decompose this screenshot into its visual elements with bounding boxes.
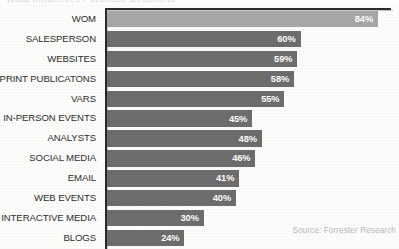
bar-category-label: SOCIAL MEDIA xyxy=(0,152,96,163)
bar: 60% xyxy=(107,31,301,47)
bar-row: VARS55% xyxy=(0,91,399,111)
bar-rows: WOM84%SALESPERSON60%WEBSITES59%PRINT PUB… xyxy=(0,11,399,249)
bar-category-label: BLOGS xyxy=(0,232,96,243)
bar-category-label: VARS xyxy=(0,93,96,104)
bar-value-label: 45% xyxy=(229,114,247,124)
bar-value-label: 41% xyxy=(216,173,234,183)
bar-row: WOM84% xyxy=(0,11,399,31)
bar: 30% xyxy=(107,210,204,226)
bar-row: WEBSITES59% xyxy=(0,51,399,71)
bar: 55% xyxy=(107,91,284,107)
bar-category-label: ANALYSTS xyxy=(0,132,96,143)
bar-category-label: EMAIL xyxy=(0,172,96,183)
bar-value-label: 55% xyxy=(261,94,279,104)
bar: 59% xyxy=(107,51,297,67)
bar-row: SALESPERSON60% xyxy=(0,31,399,51)
bar-category-label: INTERACTIVE MEDIA xyxy=(0,212,96,223)
bar-category-label: SALESPERSON xyxy=(0,33,96,44)
bar-category-label: IN-PERSON EVENTS xyxy=(0,112,96,123)
bar: 45% xyxy=(107,110,252,126)
bar: 24% xyxy=(107,230,184,246)
bar: 84% xyxy=(107,11,378,27)
bar-value-label: 48% xyxy=(239,134,257,144)
bar-category-label: WEBSITES xyxy=(0,53,96,64)
bar-value-label: 30% xyxy=(180,213,198,223)
bar-category-label: WOM xyxy=(0,13,96,24)
bar-row: EMAIL41% xyxy=(0,170,399,190)
bar-row: SOCIAL MEDIA46% xyxy=(0,150,399,170)
bar-category-label: WEB EVENTS xyxy=(0,192,96,203)
bar-value-label: 84% xyxy=(355,14,373,24)
bar-category-label: PRINT PUBLICATONS xyxy=(0,73,96,84)
bar: 41% xyxy=(107,170,239,186)
bar-row: ANALYSTS48% xyxy=(0,130,399,150)
page-title: What Influences Purchase Decisions xyxy=(6,0,266,5)
bar-row: IN-PERSON EVENTS45% xyxy=(0,110,399,130)
bar-value-label: 58% xyxy=(271,74,289,84)
bar-value-label: 59% xyxy=(274,54,292,64)
bar: 46% xyxy=(107,150,255,166)
bar: 48% xyxy=(107,130,262,146)
bar: 40% xyxy=(107,190,236,206)
source-note: Source: Forrester Research xyxy=(292,226,396,235)
bar-value-label: 60% xyxy=(277,34,295,44)
bar-row: WEB EVENTS40% xyxy=(0,190,399,210)
bar-row: PRINT PUBLICATONS58% xyxy=(0,71,399,91)
bar-value-label: 24% xyxy=(161,233,179,243)
bar-value-label: 40% xyxy=(213,193,231,203)
bar-chart: What Influences Purchase Decisions WOM84… xyxy=(0,0,399,249)
bar: 58% xyxy=(107,71,294,87)
bar-value-label: 46% xyxy=(232,153,250,163)
